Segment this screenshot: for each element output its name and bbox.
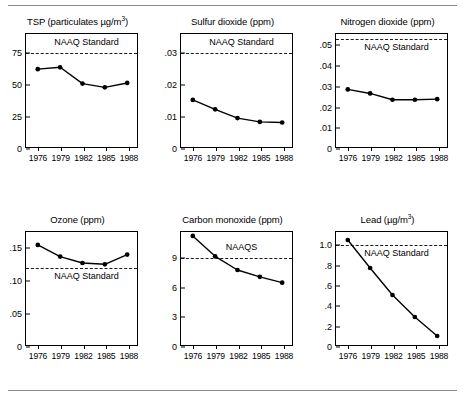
- y-tick-label: .6: [324, 281, 332, 291]
- x-tick-mark: [129, 147, 130, 151]
- y-tick-label: 0: [327, 144, 332, 154]
- x-tick-mark: [394, 345, 395, 349]
- data-point: [58, 254, 63, 259]
- data-point: [102, 85, 107, 90]
- x-tick-label: 1979: [362, 153, 380, 163]
- y-tick-label: 9: [172, 253, 177, 263]
- y-tick-label: .02: [164, 80, 177, 90]
- data-point: [412, 315, 417, 320]
- x-tick-mark: [61, 147, 62, 151]
- y-tick-label: 6: [172, 283, 177, 293]
- x-tick-label: 1979: [362, 351, 380, 361]
- data-point: [368, 266, 373, 271]
- series-sulfur-dioxide: [181, 34, 292, 147]
- x-tick-label: 1979: [207, 153, 225, 163]
- data-point: [35, 67, 40, 72]
- data-point: [213, 107, 218, 112]
- x-tick-label: 1982: [384, 351, 402, 361]
- y-tick-label: .03: [319, 82, 332, 92]
- x-tick-mark: [216, 147, 217, 151]
- x-tick-label: 1982: [74, 351, 92, 361]
- x-tick-mark: [416, 345, 417, 349]
- x-tick-label: 1985: [407, 351, 425, 361]
- x-tick-label: 1988: [275, 351, 293, 361]
- data-point: [257, 120, 262, 125]
- x-tick-mark: [394, 147, 395, 151]
- x-tick-label: 1976: [339, 351, 357, 361]
- data-point: [435, 97, 440, 102]
- x-tick-mark: [371, 147, 372, 151]
- panel-title-ozone: Ozone (ppm): [0, 214, 155, 225]
- data-point: [390, 97, 395, 102]
- series-tsp: [26, 34, 137, 147]
- x-tick-label: 1985: [252, 153, 270, 163]
- data-point: [368, 91, 373, 96]
- y-tick-mark: [336, 149, 340, 150]
- plot-area-ozone: 0.05.10.1519761979198219851988NAAQ Stand…: [25, 231, 138, 346]
- y-tick-label: .04: [319, 61, 332, 71]
- y-tick-label: .8: [324, 261, 332, 271]
- air-quality-trends-figure: TSP (particulates µg/m3)0255075197619791…: [0, 0, 465, 398]
- x-tick-label: 1982: [74, 153, 92, 163]
- data-point: [390, 293, 395, 298]
- data-point: [102, 262, 107, 267]
- x-tick-mark: [439, 147, 440, 151]
- x-tick-label: 1976: [29, 153, 47, 163]
- y-tick-label: .10: [9, 276, 22, 286]
- x-tick-mark: [261, 147, 262, 151]
- y-tick-label: .05: [9, 309, 22, 319]
- series-lead: [336, 232, 447, 345]
- x-tick-label: 1988: [430, 351, 448, 361]
- y-tick-label: 0: [172, 144, 177, 154]
- x-tick-mark: [129, 345, 130, 349]
- data-point: [80, 261, 85, 266]
- figure-top-rule: [8, 5, 457, 6]
- y-tick-label: .02: [319, 103, 332, 113]
- series-line: [193, 236, 282, 283]
- y-tick-label: 1.0: [319, 240, 332, 250]
- x-tick-mark: [261, 345, 262, 349]
- y-tick-label: 3: [172, 312, 177, 322]
- y-tick-label: 25: [12, 112, 22, 122]
- y-tick-label: 0: [172, 342, 177, 352]
- x-tick-mark: [106, 345, 107, 349]
- x-tick-mark: [38, 147, 39, 151]
- x-tick-label: 1976: [29, 351, 47, 361]
- data-point: [412, 97, 417, 102]
- y-tick-label: 0: [327, 342, 332, 352]
- series-line: [348, 240, 437, 336]
- series-carbon-monoxide: [181, 232, 292, 345]
- x-tick-mark: [193, 147, 194, 151]
- x-tick-mark: [84, 345, 85, 349]
- y-tick-label: .4: [324, 301, 332, 311]
- x-tick-mark: [106, 147, 107, 151]
- x-tick-label: 1979: [207, 351, 225, 361]
- x-tick-mark: [239, 147, 240, 151]
- panel-lead: Lead (µg/m3)0.2.4.6.81.01976197919821985…: [310, 206, 465, 396]
- title-suffix: ): [125, 16, 128, 27]
- y-tick-label: .15: [9, 243, 22, 253]
- y-tick-label: .05: [319, 40, 332, 50]
- data-point: [435, 334, 440, 339]
- x-tick-label: 1982: [229, 351, 247, 361]
- y-tick-label: .01: [319, 123, 332, 133]
- panel-title-sulfur-dioxide: Sulfur dioxide (ppm): [155, 16, 310, 27]
- x-tick-mark: [439, 345, 440, 349]
- x-tick-mark: [38, 345, 39, 349]
- panel-tsp: TSP (particulates µg/m3)0255075197619791…: [0, 8, 155, 198]
- panel-carbon-monoxide: Carbon monoxide (ppm)0369197619791982198…: [155, 206, 310, 396]
- data-point: [345, 87, 350, 92]
- x-tick-label: 1979: [52, 153, 70, 163]
- data-point: [190, 234, 195, 239]
- plot-area-carbon-monoxide: 036919761979198219851988NAAQS: [180, 231, 293, 346]
- x-tick-label: 1979: [52, 351, 70, 361]
- y-tick-mark: [26, 347, 30, 348]
- y-tick-label: 50: [12, 80, 22, 90]
- title-suffix: ): [411, 214, 414, 225]
- panel-title-nitrogen-dioxide: Nitrogen dioxide (ppm): [310, 16, 465, 27]
- x-tick-label: 1982: [384, 153, 402, 163]
- x-tick-label: 1988: [120, 153, 138, 163]
- x-tick-mark: [284, 147, 285, 151]
- y-tick-label: .01: [164, 112, 177, 122]
- y-tick-label: 0: [17, 342, 22, 352]
